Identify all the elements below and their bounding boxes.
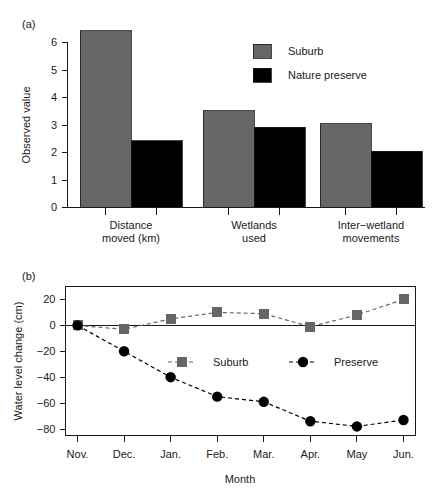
panel-b-legend: Suburb Preserve bbox=[168, 356, 378, 368]
bar-nature-preserve-0 bbox=[131, 141, 182, 208]
panel-b-x-axis-title: Month bbox=[225, 473, 256, 485]
panel-b-ytick-label-4: −60 bbox=[37, 397, 56, 409]
panel-b-xtick-label-1: Dec. bbox=[113, 448, 136, 460]
data-point-suburb-5 bbox=[305, 322, 315, 332]
panel-b-xtick-label-2: Jan. bbox=[160, 448, 181, 460]
panel-a-bars-group bbox=[80, 31, 422, 208]
legend-swatch-suburb bbox=[253, 44, 271, 58]
bar-suburb-1 bbox=[203, 111, 254, 208]
panel-a-x-ticks bbox=[106, 208, 397, 215]
panel-b-ytick-label-2: −20 bbox=[37, 345, 56, 357]
panel-b-xtick-label-6: May bbox=[347, 448, 368, 460]
panel-b-line-chart: (b) 200−20−40−60−80 Water level change (… bbox=[0, 258, 441, 503]
panel-a-ytick-5: 5 bbox=[51, 64, 57, 76]
panel-a-category-label-2: movements bbox=[343, 232, 400, 244]
panel-b-xtick-label-3: Feb. bbox=[206, 448, 228, 460]
legend-label-b-suburb: Suburb bbox=[213, 356, 248, 368]
panel-a-legend: Suburb Nature preserve bbox=[253, 44, 367, 82]
data-point-preserve-4 bbox=[259, 397, 269, 407]
panel-a-ytick-6: 6 bbox=[51, 36, 57, 48]
legend-label-nature-preserve: Nature preserve bbox=[288, 69, 367, 81]
panel-a-svg: (a) 0 1 2 3 4 5 6 bbox=[0, 0, 441, 258]
panel-a-ytick-1: 1 bbox=[51, 174, 57, 186]
data-point-preserve-2 bbox=[165, 372, 175, 382]
series-line-preserve bbox=[78, 325, 404, 426]
panel-a-category-label-1: used bbox=[242, 232, 266, 244]
panel-a-tag: (a) bbox=[22, 18, 35, 30]
panel-b-ytick-label-3: −40 bbox=[37, 371, 56, 383]
legend-label-b-preserve: Preserve bbox=[334, 356, 378, 368]
panel-b-svg: (b) 200−20−40−60−80 Water level change (… bbox=[0, 258, 441, 503]
data-point-preserve-0 bbox=[72, 320, 82, 330]
bar-nature-preserve-2 bbox=[371, 151, 422, 207]
panel-a-y-axis-title: Observed value bbox=[20, 86, 32, 163]
panel-b-xtick-label-4: Mar. bbox=[253, 448, 274, 460]
bar-suburb-0 bbox=[80, 31, 131, 208]
legend-swatch-nature-preserve bbox=[253, 68, 271, 82]
panel-b-y-tick-labels: 200−20−40−60−80 bbox=[37, 293, 56, 435]
panel-a-ytick-4: 4 bbox=[51, 91, 57, 103]
data-point-suburb-2 bbox=[166, 314, 176, 324]
panel-a-category-label-0: Distance bbox=[110, 219, 153, 231]
data-point-suburb-6 bbox=[352, 310, 362, 320]
panel-a-category-labels: Distancemoved (km)WetlandsusedInter−wetl… bbox=[102, 219, 404, 244]
legend-marker-suburb bbox=[177, 357, 187, 367]
panel-a-bar-chart: (a) 0 1 2 3 4 5 6 bbox=[0, 0, 441, 258]
panel-b-xtick-label-7: Jun. bbox=[393, 448, 414, 460]
bar-nature-preserve-1 bbox=[254, 127, 305, 207]
data-point-preserve-1 bbox=[119, 346, 129, 356]
panel-b-tag: (b) bbox=[22, 270, 35, 282]
data-point-suburb-7 bbox=[399, 294, 409, 304]
panel-a-y-ticks bbox=[62, 43, 68, 208]
legend-label-suburb: Suburb bbox=[288, 45, 323, 57]
panel-b-ytick-label-0: 20 bbox=[43, 293, 55, 305]
panel-b-y-ticks bbox=[60, 299, 66, 429]
bar-suburb-2 bbox=[320, 124, 371, 208]
panel-b-ytick-label-1: 0 bbox=[49, 319, 55, 331]
legend-marker-preserve bbox=[298, 357, 308, 367]
data-point-preserve-5 bbox=[305, 416, 315, 426]
panel-b-x-ticks bbox=[78, 436, 404, 442]
data-point-suburb-3 bbox=[212, 307, 222, 317]
panel-a-ytick-2: 2 bbox=[51, 146, 57, 158]
panel-b-xtick-label-5: Apr. bbox=[301, 448, 321, 460]
data-point-suburb-1 bbox=[119, 324, 129, 334]
panel-a-ytick-3: 3 bbox=[51, 119, 57, 131]
panel-b-xtick-label-0: Nov. bbox=[67, 448, 89, 460]
figure-container: (a) 0 1 2 3 4 5 6 bbox=[0, 0, 441, 503]
data-point-preserve-6 bbox=[352, 421, 362, 431]
panel-a-ytick-0: 0 bbox=[51, 201, 57, 213]
data-point-preserve-3 bbox=[212, 391, 222, 401]
panel-b-y-axis-title: Water level change (cm) bbox=[12, 302, 24, 421]
panel-b-x-tick-labels: Nov.Dec.Jan.Feb.Mar.Apr.MayJun. bbox=[67, 448, 414, 460]
panel-b-ytick-label-5: −80 bbox=[37, 423, 56, 435]
data-point-preserve-7 bbox=[398, 415, 408, 425]
panel-a-y-tick-labels: 0 1 2 3 4 5 6 bbox=[51, 36, 57, 213]
data-point-suburb-4 bbox=[259, 309, 269, 319]
panel-a-category-label-2: Inter−wetland bbox=[338, 219, 404, 231]
panel-a-category-label-1: Wetlands bbox=[231, 219, 277, 231]
panel-a-category-label-0: moved (km) bbox=[102, 232, 160, 244]
